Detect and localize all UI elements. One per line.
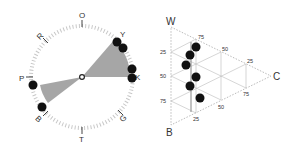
data-point <box>196 94 205 103</box>
vertex-label-w: W <box>166 16 176 27</box>
label-p: P <box>19 74 24 83</box>
data-point <box>128 74 137 83</box>
label-y: Y <box>120 30 126 39</box>
label-g: G <box>118 113 129 124</box>
tick-top-50: 50 <box>222 46 228 52</box>
tick-top-75: 75 <box>198 34 204 40</box>
center-marker <box>80 75 85 80</box>
data-point <box>128 65 137 74</box>
tick-left-50: 50 <box>160 73 166 79</box>
vertex-label-b: B <box>166 127 173 138</box>
tick-bottom-75: 75 <box>243 91 249 97</box>
tick-bottom-50: 50 <box>218 104 224 110</box>
ternary-grid <box>171 39 246 113</box>
figure: O Y K G T B P R <box>0 0 298 148</box>
data-point <box>192 43 201 52</box>
data-point <box>119 44 128 53</box>
data-point <box>192 73 201 82</box>
data-point <box>186 51 195 60</box>
label-t: T <box>79 135 84 144</box>
label-o: O <box>79 11 85 20</box>
data-point <box>29 81 38 90</box>
vertex-label-c: C <box>273 71 280 82</box>
label-b: B <box>33 114 43 124</box>
data-point <box>182 61 191 70</box>
circle-plot: O Y K G T B P R <box>19 11 141 144</box>
tick-left-25: 25 <box>160 49 166 55</box>
data-point <box>186 82 195 91</box>
tick-bottom-25: 25 <box>193 116 199 122</box>
tick-left-75: 75 <box>160 98 166 104</box>
sector-lower-left <box>40 77 82 103</box>
data-point <box>38 103 47 112</box>
tick-top-25: 25 <box>247 58 253 64</box>
ternary-plot: W C B 25 50 75 75 50 25 25 50 75 <box>160 16 280 138</box>
